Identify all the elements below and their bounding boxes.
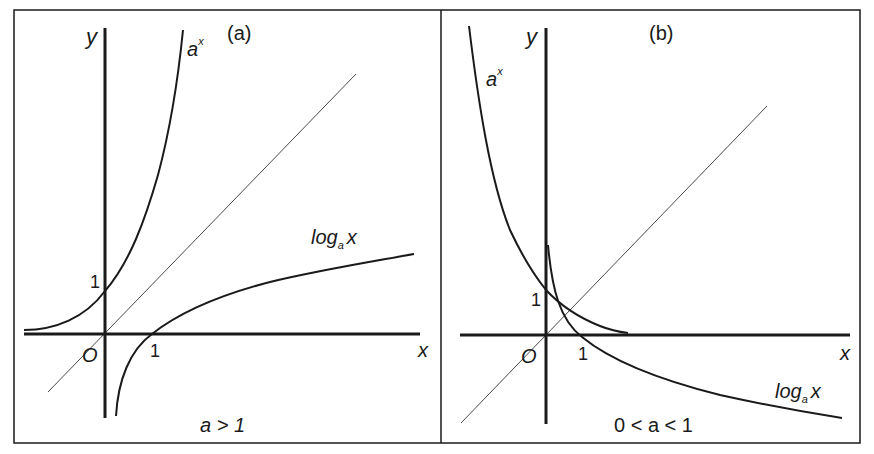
y-tick-1-b: 1	[531, 290, 541, 310]
panel-tag-b: (b)	[649, 22, 673, 44]
y-axis-label-b: y	[524, 24, 539, 49]
log-label-b: logax	[775, 380, 822, 405]
x-tick-1-b: 1	[578, 344, 588, 364]
condition-label-b: 0 < a < 1	[614, 414, 693, 436]
log-label-a: logax	[311, 226, 358, 251]
panel-b: y x O 1 1 (b) ax logax 0 < a < 1	[460, 22, 851, 436]
x-tick-1-a: 1	[150, 341, 160, 361]
x-axis-label-a: x	[417, 339, 429, 361]
x-axis-label-b: x	[839, 342, 851, 364]
origin-label-b: O	[521, 345, 537, 367]
condition-label-a: a > 1	[200, 414, 245, 436]
exp-label-b: ax	[486, 65, 503, 90]
y-tick-1-a: 1	[90, 272, 100, 292]
origin-label-a: O	[82, 344, 98, 366]
exp-label-a: ax	[187, 35, 204, 60]
panel-a: y x O 1 1 (a) ax logax a > 1	[24, 22, 429, 436]
y-axis-label-a: y	[84, 24, 99, 49]
panel-tag-a: (a)	[227, 22, 251, 44]
identity-line-b	[461, 106, 767, 423]
figure-canvas: y x O 1 1 (a) ax logax a > 1 y x O 1 1 (…	[0, 0, 874, 454]
